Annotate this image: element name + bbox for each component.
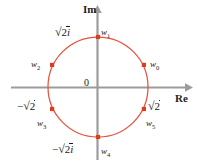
imaginary-axis-label: Im bbox=[83, 4, 96, 15]
point-label-index: 0 bbox=[156, 64, 159, 71]
point-label-index: 1 bbox=[107, 32, 110, 39]
real-axis-arrowhead bbox=[185, 83, 193, 91]
point-marker-w4 bbox=[96, 135, 100, 139]
radical-sign-icon: √ bbox=[23, 99, 30, 113]
point-label-index: 4 bbox=[107, 151, 110, 158]
radicand-group: 2 bbox=[30, 100, 36, 112]
point-label-w2: w2 bbox=[31, 60, 40, 71]
point-label-index: 2 bbox=[37, 64, 40, 71]
origin-label: 0 bbox=[84, 78, 89, 88]
point-label-w4: w4 bbox=[101, 147, 110, 158]
tick-label-negative-imaginary: −√ 2i bbox=[52, 143, 73, 155]
point-label-index: 5 bbox=[152, 123, 155, 130]
point-marker-w2 bbox=[50, 63, 54, 67]
figure-canvas bbox=[0, 0, 197, 168]
radicand-group: 2i bbox=[62, 26, 71, 38]
point-label-w3: w3 bbox=[37, 119, 46, 130]
radicand-group: 2i bbox=[65, 143, 74, 155]
imaginary-unit-suffix: i bbox=[70, 143, 73, 155]
radicand-group: 2 bbox=[155, 100, 161, 112]
point-label-index: 3 bbox=[43, 123, 46, 130]
radical-sign-icon: √ bbox=[55, 25, 62, 39]
point-marker-w1 bbox=[96, 35, 100, 39]
point-label-w5: w5 bbox=[146, 119, 155, 130]
point-marker-w0 bbox=[142, 63, 146, 67]
tick-radicand-value: 2 bbox=[155, 100, 161, 112]
tick-label-positive-imaginary: √ 2i bbox=[55, 26, 70, 38]
point-label-w0: w0 bbox=[150, 60, 159, 71]
radical-sign-icon: √ bbox=[58, 142, 65, 156]
tick-label-positive-real: √ 2 bbox=[148, 100, 160, 112]
imaginary-unit-suffix: i bbox=[67, 26, 70, 38]
complex-plane-figure: Im Re 0 √ 2i −√ 2i √ 2 −√ 2 w0 w1 w2 w3 … bbox=[0, 0, 197, 168]
point-label-w1: w1 bbox=[101, 28, 110, 39]
point-marker-w3 bbox=[50, 107, 54, 111]
tick-radicand-value: 2 bbox=[30, 100, 36, 112]
point-marker-w5 bbox=[142, 107, 146, 111]
real-axis-label: Re bbox=[175, 93, 188, 104]
radical-sign-icon: √ bbox=[148, 99, 155, 113]
tick-label-negative-real: −√ 2 bbox=[17, 100, 35, 112]
